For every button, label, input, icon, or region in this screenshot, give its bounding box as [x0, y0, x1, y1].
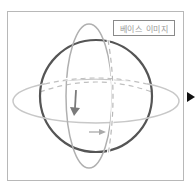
horizontal-orbit-back — [40, 82, 152, 92]
base-image-label: 베이스 이미지 — [113, 20, 175, 36]
down-arrow-icon — [70, 90, 80, 116]
horizontal-orbit — [13, 79, 179, 123]
next-arrow-icon[interactable] — [187, 92, 195, 102]
right-arrow-icon — [89, 129, 106, 135]
sphere-outline — [40, 40, 152, 152]
vertical-orbit — [66, 24, 112, 168]
